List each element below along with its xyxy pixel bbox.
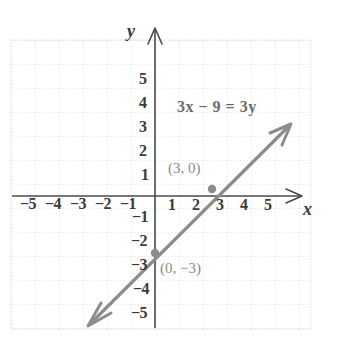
y-tick-label-neg4: −4 bbox=[133, 281, 149, 297]
y-tick-label-4: 4 bbox=[139, 95, 147, 111]
y-tick-label-neg1: −1 bbox=[132, 209, 148, 225]
y-tick-label-5: 5 bbox=[139, 71, 147, 87]
point-label-3-0: (3, 0) bbox=[168, 161, 201, 176]
y-axis-label: y bbox=[127, 22, 135, 40]
point-marker-3-0 bbox=[208, 185, 216, 193]
y-tick-label-1: 1 bbox=[141, 167, 149, 183]
y-tick-label-neg3: −3 bbox=[131, 257, 147, 273]
coordinate-plane-graph: y x −5 −4 −3 −2 −1 1 2 3 4 5 5 4 3 2 1 −… bbox=[0, 0, 340, 349]
x-tick-label-neg5: −5 bbox=[20, 196, 36, 212]
x-tick-label-1: 1 bbox=[168, 197, 176, 213]
equation-label: 3x − 9 = 3y bbox=[177, 99, 257, 115]
x-axis-label: x bbox=[303, 200, 312, 218]
x-tick-label-neg4: −4 bbox=[45, 196, 61, 212]
x-tick-label-3: 3 bbox=[216, 197, 224, 213]
x-tick-label-2: 2 bbox=[192, 197, 200, 213]
y-tick-label-neg5: −5 bbox=[131, 305, 147, 321]
y-tick-label-3: 3 bbox=[139, 119, 147, 135]
y-tick-label-2: 2 bbox=[139, 143, 147, 159]
x-tick-label-4: 4 bbox=[240, 197, 248, 213]
point-label-0-neg3: (0, −3) bbox=[160, 261, 201, 276]
x-tick-label-5: 5 bbox=[264, 197, 272, 213]
point-marker-0-neg3 bbox=[151, 249, 159, 257]
y-tick-label-neg2: −2 bbox=[131, 233, 147, 249]
x-tick-label-neg3: −3 bbox=[70, 196, 86, 212]
x-tick-label-neg2: −2 bbox=[95, 196, 111, 212]
grid-lines bbox=[11, 40, 311, 329]
